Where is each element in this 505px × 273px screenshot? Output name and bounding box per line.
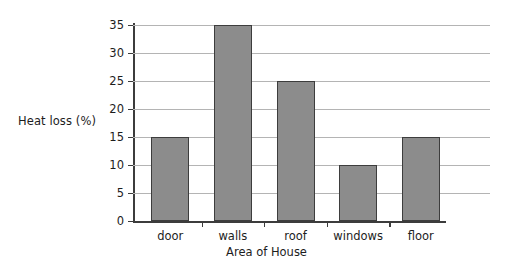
x-tick-mark xyxy=(389,221,390,227)
x-tick-mark xyxy=(202,221,203,227)
gridline xyxy=(133,53,490,54)
y-tick-label: 10 xyxy=(109,158,124,172)
y-tick-mark xyxy=(128,137,133,138)
x-tick-label-roof: roof xyxy=(284,229,307,243)
y-tick-label: 25 xyxy=(109,74,124,88)
y-tick-label: 15 xyxy=(109,130,124,144)
bar-windows xyxy=(339,165,377,221)
y-tick-mark xyxy=(128,53,133,54)
x-tick-label-windows: windows xyxy=(333,229,383,243)
x-tick-mark xyxy=(264,221,265,227)
bar-walls xyxy=(214,25,252,221)
bar-roof xyxy=(277,81,315,221)
bar-door xyxy=(151,137,189,221)
y-tick-mark xyxy=(128,221,133,222)
y-tick-label: 5 xyxy=(117,186,124,200)
x-axis-baseline xyxy=(133,221,446,223)
x-tick-label-floor: floor xyxy=(408,229,434,243)
x-tick-mark xyxy=(327,221,328,227)
y-tick-mark xyxy=(128,81,133,82)
y-tick-label: 20 xyxy=(109,102,124,116)
y-tick-mark xyxy=(128,109,133,110)
y-tick-label: 0 xyxy=(117,214,124,228)
y-tick-mark xyxy=(128,25,133,26)
y-tick-label: 35 xyxy=(109,18,124,32)
x-tick-label-door: door xyxy=(157,229,183,243)
y-tick-label: 30 xyxy=(109,46,124,60)
plot-area: 05101520253035 doorwallsroofwindowsfloor xyxy=(133,25,490,221)
bar-chart-figure: Heat loss (%) 05101520253035 doorwallsro… xyxy=(0,0,505,273)
x-tick-label-walls: walls xyxy=(218,229,247,243)
x-axis-title: Area of House xyxy=(226,245,307,259)
y-tick-mark xyxy=(128,193,133,194)
y-axis-title: Heat loss (%) xyxy=(18,114,96,128)
x-axis-title-wrap: Area of House xyxy=(0,245,505,259)
y-tick-mark xyxy=(128,165,133,166)
bar-floor xyxy=(402,137,440,221)
gridline xyxy=(133,25,490,26)
